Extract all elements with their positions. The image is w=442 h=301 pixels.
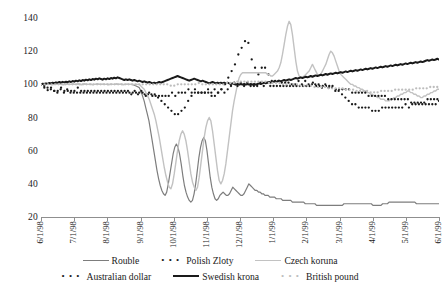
y-axis-tick-label: 120 [23, 46, 38, 56]
legend-row: RoublePolish ZlotyCzech koruna [0, 252, 442, 268]
series-polish-zloty [41, 40, 439, 115]
legend-item-british-pound[interactable]: British pound [281, 271, 359, 282]
x-axis-tick-label: 7/1/98 [69, 221, 81, 244]
legend-marker-icon [161, 256, 183, 265]
legend-marker-icon [281, 272, 303, 281]
x-axis-tick-label: 1/1/99 [268, 221, 280, 244]
y-axis-tick-label: 60 [28, 146, 38, 156]
y-axis-tick-label: 80 [28, 113, 38, 123]
x-axis-tick-label: 9/1/98 [136, 221, 148, 244]
legend-label: British pound [306, 271, 359, 282]
legend-item-australian-dollar[interactable]: Australian dollar [61, 271, 151, 282]
x-axis-tick-label: 11/1/98 [202, 221, 214, 248]
chart-plot-svg [41, 18, 439, 217]
legend-marker-icon [61, 272, 83, 281]
x-axis-tick-label: 6/1/99 [434, 221, 442, 244]
legend-marker-icon [173, 272, 199, 281]
legend-label: Rouble [112, 255, 140, 266]
series-rouble [41, 84, 439, 206]
x-axis-tick-label: 4/1/99 [368, 221, 380, 244]
legend-label: Polish Zloty [186, 255, 233, 266]
y-axis: 14012010080604020 [0, 0, 38, 230]
series-czech-koruna [41, 21, 439, 190]
y-axis-tick-label: 100 [23, 79, 38, 89]
legend-item-swedish-krona[interactable]: Swedish krona [173, 271, 259, 282]
chart-legend: RoublePolish ZlotyCzech korunaAustralian… [0, 252, 442, 288]
chart-figure: 14012010080604020 RoublePolish ZlotyCzec… [0, 0, 442, 301]
legend-item-czech-koruna[interactable]: Czech koruna [255, 255, 337, 266]
legend-label: Czech koruna [284, 255, 337, 266]
legend-marker-icon [255, 256, 281, 265]
plot-area [41, 18, 439, 217]
y-axis-tick-label: 40 [28, 179, 38, 189]
x-axis-tick-label: 12/1/98 [235, 221, 247, 248]
legend-marker-icon [83, 256, 109, 265]
legend-label: Australian dollar [86, 271, 151, 282]
x-axis-tick-label: 3/1/99 [335, 221, 347, 244]
legend-label: Swedish krona [202, 271, 259, 282]
series-swedish-krona [41, 59, 439, 85]
x-axis-tick-label: 10/1/98 [169, 221, 181, 248]
legend-item-rouble[interactable]: Rouble [83, 255, 140, 266]
x-axis-tick-label: 8/1/98 [102, 221, 114, 244]
y-axis-tick-label: 140 [23, 13, 38, 23]
legend-item-polish-zloty[interactable]: Polish Zloty [161, 255, 233, 266]
x-axis-tick-label: 5/1/99 [401, 221, 413, 244]
legend-row: Australian dollarSwedish kronaBritish po… [0, 268, 442, 284]
x-axis-tick-label: 6/1/98 [36, 221, 48, 244]
x-axis-tick-label: 2/1/99 [301, 221, 313, 244]
